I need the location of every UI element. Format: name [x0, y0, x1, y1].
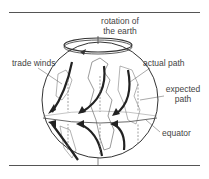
rotation-label-line2: the earth	[95, 26, 145, 36]
trade-winds-label: trade winds	[12, 58, 55, 68]
rotation-label: rotation of the earth	[95, 16, 145, 36]
rotation-label-line1: rotation of	[95, 16, 145, 26]
actual-path-label: actual path	[143, 58, 185, 68]
expected-path-label: expected path	[163, 84, 203, 104]
expected-label-line2: path	[163, 94, 203, 104]
equator-label: equator	[162, 128, 191, 138]
expected-label-line1: expected	[163, 84, 203, 94]
